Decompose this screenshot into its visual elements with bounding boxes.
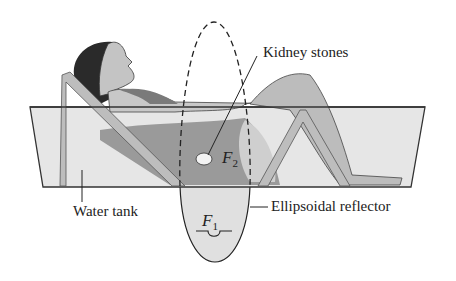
kidney-stones-label: Kidney stones <box>263 44 348 61</box>
focus-1-label: F1 <box>202 211 218 232</box>
kidney-stone <box>196 153 212 165</box>
lithotripter-diagram: Kidney stones Water tank Ellipsoidal ref… <box>0 0 456 281</box>
water-tank-label: Water tank <box>73 203 138 220</box>
ellipsoidal-reflector-label: Ellipsoidal reflector <box>271 198 391 215</box>
focus-2-label: F2 <box>222 148 238 169</box>
